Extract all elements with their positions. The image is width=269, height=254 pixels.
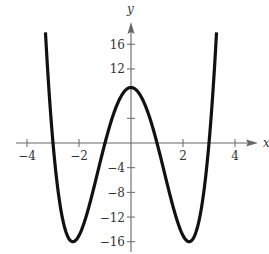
y-tick-label: −16: [100, 235, 125, 249]
y-tick-label: 16: [110, 38, 125, 52]
x-tick-label: −4: [18, 149, 36, 163]
y-tick-label: −4: [107, 161, 125, 175]
x-tick-label: 2: [179, 149, 187, 163]
x-tick-label: −2: [70, 149, 88, 163]
x-axis-label: x: [263, 136, 269, 150]
y-tick-label: −12: [100, 211, 125, 225]
y-axis-label: y: [126, 2, 134, 16]
y-tick-label: −8: [107, 186, 125, 200]
plot-area: −4−224−16−12−8−41216 x y: [0, 0, 269, 254]
x-tick-label: 4: [231, 149, 239, 163]
function-graph: −4−224−16−12−8−41216 x y: [0, 0, 269, 254]
y-tick-label: 12: [110, 62, 125, 76]
